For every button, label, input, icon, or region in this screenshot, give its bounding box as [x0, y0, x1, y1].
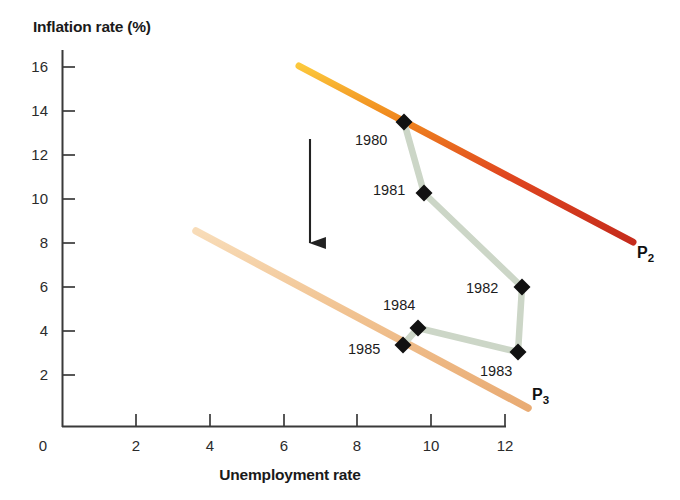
- y-tick-label-4: 4: [18, 322, 48, 339]
- y-tick-label-12: 12: [18, 146, 48, 163]
- point-label-1982: 1982: [466, 280, 498, 296]
- y-axis-ticks: [63, 67, 75, 375]
- x-axis-title: Unemployment rate: [0, 466, 580, 484]
- point-label-1983: 1983: [480, 363, 512, 379]
- marker-1983: [510, 344, 527, 361]
- x-tick-label-0: 0: [28, 437, 58, 454]
- y-tick-label-6: 6: [18, 278, 48, 295]
- point-label-1980: 1980: [355, 132, 387, 148]
- p2-curve-label-text: P: [637, 244, 648, 261]
- observed-path-line: [403, 122, 522, 352]
- p3-curve-label: P3: [532, 386, 549, 406]
- y-tick-label-8: 8: [18, 234, 48, 251]
- y-tick-label-14: 14: [18, 102, 48, 119]
- y-axis-title: Inflation rate (%): [33, 18, 151, 36]
- x-tick-label-12: 12: [490, 437, 520, 454]
- p3-curve: [196, 231, 528, 408]
- axis-lines: [62, 50, 506, 427]
- chart-canvas: [0, 0, 680, 500]
- x-tick-label-2: 2: [121, 437, 151, 454]
- p2-curve-label-sub: 2: [648, 252, 654, 264]
- point-label-1981: 1981: [373, 182, 405, 198]
- x-axis-ticks: [136, 414, 505, 426]
- point-label-1984: 1984: [383, 297, 415, 313]
- y-tick-label-16: 16: [18, 58, 48, 75]
- phillips-curve-figure: Inflation rate (%) Unemployment rate 16 …: [0, 0, 680, 500]
- x-tick-label-10: 10: [416, 437, 446, 454]
- y-tick-label-10: 10: [18, 190, 48, 207]
- p2-curve-label: P2: [637, 244, 654, 264]
- x-tick-label-8: 8: [342, 437, 372, 454]
- y-tick-label-2: 2: [18, 366, 48, 383]
- p2-curve: [299, 66, 633, 242]
- p3-curve-label-sub: 3: [543, 394, 549, 406]
- point-label-1985: 1985: [348, 341, 380, 357]
- x-tick-label-4: 4: [195, 437, 225, 454]
- p3-curve-label-text: P: [532, 386, 543, 403]
- x-tick-label-6: 6: [269, 437, 299, 454]
